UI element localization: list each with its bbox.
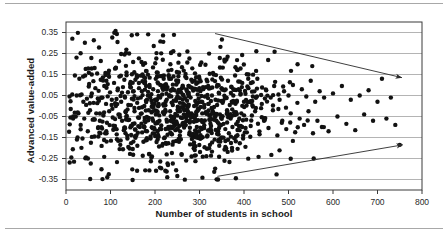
scatter-point	[220, 37, 224, 41]
scatter-point	[256, 122, 260, 126]
scatter-point	[118, 138, 122, 142]
x-tick-label: 100	[91, 197, 131, 207]
scatter-point	[129, 141, 133, 145]
scatter-point	[102, 110, 106, 114]
scatter-point	[136, 124, 140, 128]
scatter-point	[99, 125, 103, 129]
scatter-point	[124, 64, 128, 68]
scatter-point	[100, 177, 104, 181]
scatter-point	[92, 66, 96, 70]
scatter-point	[123, 95, 127, 99]
scatter-point	[311, 131, 315, 135]
scatter-point	[322, 125, 326, 129]
scatter-point	[171, 49, 175, 53]
scatter-point	[215, 112, 219, 116]
scatter-point	[306, 109, 310, 113]
scatter-point	[144, 69, 148, 73]
scatter-point	[113, 117, 117, 121]
scatter-point	[206, 108, 210, 112]
scatter-point	[216, 139, 220, 143]
scatter-point	[135, 169, 139, 173]
scatter-point	[371, 119, 375, 123]
scatter-point	[181, 85, 185, 89]
scatter-point	[221, 135, 225, 139]
scatter-point	[288, 80, 292, 84]
scatter-point	[205, 93, 209, 97]
scatter-point	[179, 105, 183, 109]
scatter-point	[217, 155, 221, 159]
scatter-point	[97, 45, 101, 49]
scatter-point	[128, 152, 132, 156]
scatter-point	[119, 74, 123, 78]
scatter-point	[274, 172, 278, 176]
scatter-point	[272, 49, 276, 53]
scatter-point	[145, 115, 149, 119]
scatter-point	[282, 89, 286, 93]
scatter-point	[300, 87, 304, 91]
scatter-point	[340, 84, 344, 88]
scatter-point	[313, 100, 317, 104]
scatter-point	[243, 126, 247, 130]
scatter-point	[375, 100, 379, 104]
scatter-point	[85, 96, 89, 100]
scatter-point	[193, 144, 197, 148]
scatter-point	[72, 159, 76, 163]
scatter-plot-figure: Advanced value-added Number of students …	[0, 0, 448, 240]
scatter-point	[175, 174, 179, 178]
scatter-point	[310, 64, 314, 68]
scatter-point	[144, 108, 148, 112]
scatter-point	[200, 175, 204, 179]
scatter-point	[130, 33, 134, 37]
scatter-point	[280, 119, 284, 123]
scatter-point	[104, 102, 108, 106]
scatter-point	[202, 145, 206, 149]
scatter-point	[159, 51, 163, 55]
scatter-point	[140, 79, 144, 83]
scatter-point	[220, 77, 224, 81]
scatter-point	[344, 122, 348, 126]
scatter-point	[246, 156, 250, 160]
scatter-point	[272, 84, 276, 88]
scatter-point	[246, 77, 250, 81]
scatter-point	[331, 91, 335, 95]
scatter-point	[174, 99, 178, 103]
scatter-point	[147, 85, 151, 89]
scatter-point	[197, 86, 201, 90]
scatter-point	[255, 86, 259, 90]
scatter-point	[141, 154, 145, 158]
scatter-point	[393, 123, 397, 127]
scatter-point	[186, 92, 190, 96]
scatter-point	[78, 123, 82, 127]
scatter-point	[174, 139, 178, 143]
scatter-point	[172, 33, 176, 37]
scatter-point	[70, 92, 74, 96]
scatter-point	[215, 132, 219, 136]
scatter-point	[297, 116, 301, 120]
scatter-point	[200, 100, 204, 104]
scatter-point	[175, 94, 179, 98]
scatter-point	[107, 123, 111, 127]
scatter-point	[191, 88, 195, 92]
scatter-point	[130, 178, 134, 182]
scatter-point	[102, 155, 106, 159]
scatter-point	[210, 111, 214, 115]
scatter-points-group	[67, 29, 402, 182]
scatter-point	[208, 122, 212, 126]
scatter-point	[86, 66, 90, 70]
scatter-point	[189, 154, 193, 158]
scatter-point	[137, 116, 141, 120]
x-tick-label: 700	[358, 197, 398, 207]
scatter-point	[78, 127, 82, 131]
scatter-point	[286, 93, 290, 97]
scatter-point	[250, 80, 254, 84]
scatter-point	[229, 91, 233, 95]
scatter-point	[201, 154, 205, 158]
scatter-point	[260, 85, 264, 89]
scatter-point	[114, 127, 118, 131]
scatter-point	[158, 159, 162, 163]
scatter-point	[199, 118, 203, 122]
scatter-point	[76, 31, 80, 35]
scatter-point	[271, 103, 275, 107]
x-axis-title: Number of students in school	[0, 208, 448, 219]
scatter-point	[227, 160, 231, 164]
